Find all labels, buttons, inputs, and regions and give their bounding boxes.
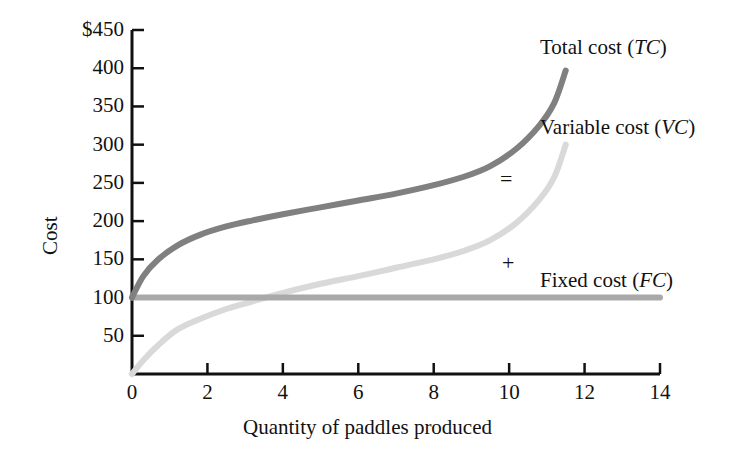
variable-cost-text: Variable cost ( <box>540 115 661 139</box>
variable-cost-paren: ) <box>688 115 695 139</box>
equals-operator: = <box>500 168 512 190</box>
cost-curves-chart: $45040035030025020015010050 02468101214 … <box>0 0 742 455</box>
x-axis-title: Quantity of paddles produced <box>243 415 492 440</box>
x-tick-label: 0 <box>102 382 162 403</box>
series-label-total-cost: Total cost (TC) <box>540 35 667 60</box>
series-label-fixed-cost: Fixed cost (FC) <box>540 268 673 293</box>
y-axis-title: Cost <box>38 216 63 255</box>
total-cost-text: Total cost ( <box>540 35 634 59</box>
total-cost-abbr: TC <box>634 35 660 59</box>
x-tick-label: 8 <box>404 382 464 403</box>
y-tick-label: $450 <box>30 19 124 40</box>
y-tick-label: 50 <box>30 325 124 346</box>
fixed-cost-text: Fixed cost ( <box>540 268 639 292</box>
axes-group <box>132 30 660 374</box>
x-tick-label: 6 <box>328 382 388 403</box>
y-tick-label: 100 <box>30 287 124 308</box>
total-cost-paren: ) <box>660 35 667 59</box>
fixed-cost-abbr: FC <box>639 268 666 292</box>
x-tick-label: 2 <box>177 382 237 403</box>
fixed-cost-paren: ) <box>666 268 673 292</box>
y-tick-label: 400 <box>30 57 124 78</box>
x-tick-label: 4 <box>253 382 313 403</box>
series-label-variable-cost: Variable cost (VC) <box>540 115 695 140</box>
y-tick-label: 300 <box>30 134 124 155</box>
x-tick-label: 10 <box>479 382 539 403</box>
x-axis-ticks <box>207 363 660 374</box>
plus-operator: + <box>502 252 514 274</box>
y-tick-label: 250 <box>30 172 124 193</box>
variable-cost-abbr: VC <box>661 115 688 139</box>
x-tick-label: 14 <box>630 382 690 403</box>
x-tick-label: 12 <box>555 382 615 403</box>
y-tick-label: 350 <box>30 95 124 116</box>
